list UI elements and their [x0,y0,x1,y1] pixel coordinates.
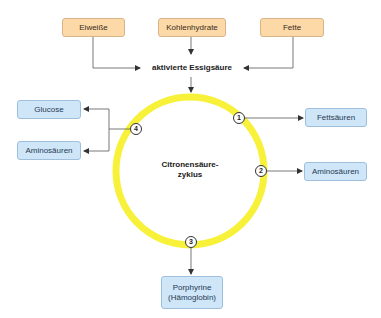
output-label-fettsaeuren: Fettsäuren [317,113,355,123]
arrow-eiweisse-to-hub [93,37,140,68]
cycle-label-line1: Citronensäure- [140,160,240,170]
output-label-aminosaeuren-right: Aminosäuren [312,167,359,177]
input-label-fette: Fette [283,23,301,33]
output-box-aminosaeuren-right: Aminosäuren [304,162,367,181]
output-box-fettsaeuren: Fettsäuren [305,108,367,127]
input-box-fette: Fette [260,18,324,37]
output-box-aminosaeuren-left: Aminosäuren [17,141,81,160]
cycle-node-2: 2 [255,165,267,177]
input-box-kohlenhydrate: Kohlenhydrate [158,18,226,37]
arrow-fette-to-hub [244,37,293,68]
output-label-haemoglobin: (Hämoglobin) [168,293,216,303]
output-box-porphyrine: Porphyrine (Hämoglobin) [161,276,223,309]
cycle-node-3: 3 [185,236,197,248]
cycle-label: Citronensäure- zyklus [140,160,240,180]
output-box-glucose: Glucose [17,100,81,119]
input-label-eiweisse: Eiweiße [79,23,107,33]
output-label-aminosaeuren-left: Aminosäuren [25,146,72,156]
output-label-glucose: Glucose [34,105,63,115]
output-label-porphyrine: Porphyrine [173,283,212,293]
cycle-node-1: 1 [233,112,245,124]
input-box-eiweisse: Eiweiße [62,18,125,37]
cycle-label-line2: zyklus [140,170,240,180]
input-label-kohlenhydrate: Kohlenhydrate [166,23,218,33]
cycle-node-4: 4 [130,123,142,135]
hub-label: aktivierte Essigsäure [142,63,242,73]
